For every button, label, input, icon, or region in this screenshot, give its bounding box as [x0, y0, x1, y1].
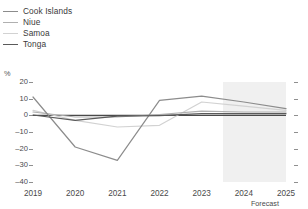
- y-tick-mark-right: [294, 182, 298, 183]
- y-tick-label: 20: [2, 78, 28, 86]
- legend-label-cook-islands: Cook Islands: [23, 6, 72, 17]
- y-tick-label: 10: [2, 95, 28, 103]
- plot-area: [33, 82, 286, 182]
- x-tick-label: 2023: [182, 189, 222, 198]
- clipped-title-fragment: [96, 0, 226, 4]
- forecast-caption: Forecast: [235, 199, 295, 208]
- legend-label-niue: Niue: [23, 17, 40, 28]
- x-tick-label: 2021: [97, 189, 137, 198]
- y-tick-mark-right: [294, 132, 298, 133]
- legend-item-cook-islands: Cook Islands: [3, 6, 72, 17]
- legend-label-samoa: Samoa: [23, 28, 50, 39]
- x-tick-label: 2024: [224, 189, 264, 198]
- y-tick-mark-right: [294, 165, 298, 166]
- y-tick-mark-left: [29, 182, 33, 183]
- legend-swatch-niue: [3, 22, 18, 23]
- legend-label-tonga: Tonga: [23, 39, 46, 50]
- chart-legend: Cook Islands Niue Samoa Tonga: [3, 6, 72, 50]
- y-tick-label: –20: [2, 145, 28, 153]
- legend-swatch-samoa: [3, 33, 18, 34]
- legend-swatch-cook-islands: [3, 11, 18, 12]
- y-tick-mark-right: [294, 115, 298, 116]
- y-tick-mark-right: [294, 82, 298, 83]
- y-tick-label: 0: [2, 111, 28, 119]
- y-tick-mark-right: [294, 99, 298, 100]
- y-tick-label: –40: [2, 178, 28, 186]
- x-tick-label: 2020: [55, 189, 95, 198]
- y-tick-mark-right: [294, 149, 298, 150]
- y-tick-label: –10: [2, 128, 28, 136]
- legend-item-niue: Niue: [3, 17, 72, 28]
- series-line-cook-islands: [33, 96, 286, 160]
- series-lines: [33, 82, 286, 182]
- legend-item-samoa: Samoa: [3, 28, 72, 39]
- chart-container: Cook Islands Niue Samoa Tonga % 20100–10…: [0, 0, 308, 209]
- legend-item-tonga: Tonga: [3, 39, 72, 50]
- legend-swatch-tonga: [3, 44, 18, 45]
- y-axis-unit-label: %: [4, 69, 11, 78]
- y-tick-label: –30: [2, 161, 28, 169]
- x-tick-label: 2025: [266, 189, 306, 198]
- x-tick-label: 2019: [13, 189, 53, 198]
- x-tick-label: 2022: [140, 189, 180, 198]
